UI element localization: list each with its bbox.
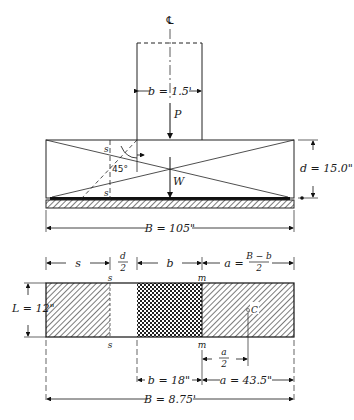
column-region bbox=[137, 283, 202, 337]
depth-label: d = 15.0" bbox=[300, 162, 353, 175]
footing-width-dimension: B = 105" bbox=[46, 210, 294, 235]
section-s-bottom-label: s bbox=[104, 188, 109, 198]
shear-plane-line bbox=[81, 140, 137, 199]
load-label: P bbox=[173, 108, 182, 121]
column-width-label: b = 1.5' bbox=[148, 85, 192, 98]
centroid-point bbox=[247, 309, 250, 312]
plan-section-s-bottom: s bbox=[108, 340, 113, 350]
diagonal-line bbox=[46, 140, 288, 197]
dim-s-label: s bbox=[75, 257, 81, 270]
section-s-top-label: s bbox=[104, 144, 109, 154]
footing-diagram: ℄ b = 1.5' P s s bbox=[0, 0, 354, 420]
centroid-label: C bbox=[251, 305, 258, 315]
b-value-label: b = 18" bbox=[148, 374, 190, 387]
footing-width-label: B = 105" bbox=[144, 222, 195, 235]
length-label: L = 12" bbox=[11, 302, 55, 315]
angle-arc bbox=[121, 146, 137, 158]
depth-dimension: d = 15.0" bbox=[298, 140, 353, 200]
diagonal-line bbox=[52, 140, 294, 197]
dim-d-half-num: d bbox=[120, 251, 126, 261]
a-half-num: a bbox=[221, 347, 226, 357]
dim-a-num: B − b bbox=[245, 251, 272, 261]
soil-hatch bbox=[46, 200, 294, 208]
angle-label: 45° bbox=[112, 164, 128, 174]
plan-section-s-top: s bbox=[108, 273, 113, 283]
a-value-label: a = 43.5" bbox=[220, 374, 272, 387]
centerline-symbol: ℄ bbox=[165, 14, 173, 27]
a-half-den: 2 bbox=[220, 359, 227, 369]
dim-a-prefix: a = bbox=[224, 257, 243, 270]
plan-section-m-top: m bbox=[198, 273, 207, 283]
weight-label: W bbox=[173, 175, 186, 188]
dim-b-label: b bbox=[166, 257, 173, 270]
total-width-label: B = 8.75' bbox=[143, 393, 196, 406]
d-half-region bbox=[110, 283, 137, 337]
dim-a-den: 2 bbox=[255, 263, 262, 273]
dim-d-half-den: 2 bbox=[119, 263, 126, 273]
overhang-hatch-left bbox=[46, 283, 110, 337]
column-width-dimension: b = 1.5' bbox=[138, 85, 201, 98]
elevation-view: ℄ b = 1.5' P s s bbox=[46, 14, 353, 235]
plan-section-m-bottom: m bbox=[198, 340, 207, 350]
plan-view: s d 2 b a = B − b 2 s m C bbox=[10, 251, 294, 406]
